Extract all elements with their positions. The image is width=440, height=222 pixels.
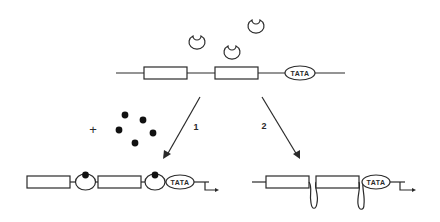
transcription-start <box>400 182 413 190</box>
bottom-left-gene: TATA <box>27 172 219 192</box>
gene-regulation-diagram: TATA + 1 2 TATA <box>0 0 440 222</box>
ligand-group: + <box>89 112 156 147</box>
exon-1 <box>27 176 70 188</box>
arrow-pathway-2: 2 <box>261 97 300 159</box>
tata-label: TATA <box>170 179 189 186</box>
ligand-dot <box>116 127 123 134</box>
ligand-dot <box>140 117 147 124</box>
free-protein-3 <box>248 20 264 33</box>
tata-label: TATA <box>366 179 385 186</box>
transcription-arrow-icon <box>215 188 219 192</box>
ligand-dot <box>122 112 129 119</box>
bottom-right-gene: TATA <box>252 175 416 209</box>
free-protein-2 <box>224 46 240 59</box>
exon-1 <box>266 176 309 188</box>
plus-sign: + <box>89 122 97 137</box>
exon-2 <box>316 176 359 188</box>
pathway-2-label: 2 <box>261 121 266 131</box>
top-gene: TATA <box>116 66 345 80</box>
arrow-pathway-1: 1 <box>163 97 200 159</box>
arrowhead-icon <box>293 150 300 159</box>
bound-ligand-dot <box>152 172 159 179</box>
transcription-arrow-icon <box>412 188 416 192</box>
exon-1 <box>144 67 187 79</box>
arrowhead-icon <box>163 150 171 159</box>
tata-label: TATA <box>290 70 309 77</box>
ligand-dot <box>132 140 139 147</box>
pathway-1-label: 1 <box>193 122 198 132</box>
exon-2 <box>98 176 141 188</box>
exon-2 <box>215 67 258 79</box>
bound-ligand-dot <box>82 172 89 179</box>
ligand-dot <box>150 130 157 137</box>
free-protein-1 <box>189 36 205 49</box>
